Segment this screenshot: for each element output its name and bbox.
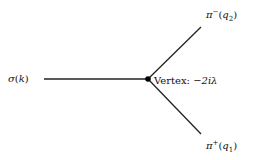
vertex-factor: −2iλ	[193, 75, 217, 86]
pi-plus-label: π+(q1)	[206, 140, 237, 152]
sigma-label: σ(k)	[8, 73, 29, 85]
pi-minus-line	[148, 27, 201, 79]
pi-minus-label: π−(q2)	[206, 9, 237, 21]
vertex-dot	[145, 76, 151, 82]
vertex-label: Vertex: −2iλ	[154, 75, 217, 87]
pi-plus-line	[148, 79, 201, 134]
feynman-diagram	[0, 0, 256, 160]
